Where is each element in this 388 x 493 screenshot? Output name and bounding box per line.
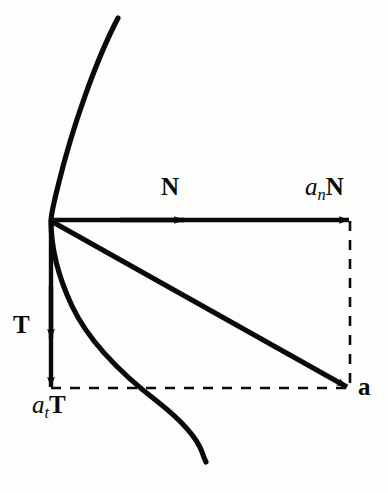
label-unit-tangent-text: T <box>13 311 30 338</box>
trajectory-curve <box>51 18 206 462</box>
label-unit-normal-text: N <box>161 173 179 200</box>
acceleration-arrow <box>51 221 347 387</box>
label-unit-tangent: T <box>13 312 30 337</box>
label-normal-component-subscript: n <box>318 185 326 204</box>
label-tangential-component: atT <box>32 392 66 422</box>
label-normal-component-vector: N <box>326 173 344 200</box>
label-unit-normal: N <box>161 174 179 199</box>
label-tangential-component-scalar: a <box>32 391 45 418</box>
label-normal-component: anN <box>305 174 344 204</box>
label-tangential-component-vector: T <box>49 391 66 418</box>
vector-decomposition-figure: N anN T atT a <box>0 0 388 493</box>
label-acceleration-text: a <box>358 373 371 400</box>
label-acceleration: a <box>358 374 371 399</box>
label-normal-component-scalar: a <box>305 173 318 200</box>
